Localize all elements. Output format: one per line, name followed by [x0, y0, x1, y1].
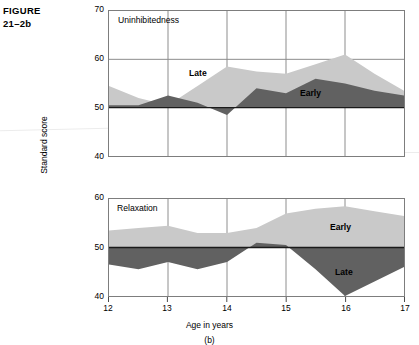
scan-artifact: [0, 128, 108, 131]
x-tick-15: 15: [275, 303, 297, 313]
y-tick-upper-40: 40: [82, 151, 104, 161]
figure-caption-line1: FIGURE: [3, 5, 67, 18]
x-tick-17: 17: [394, 303, 416, 313]
series-label-late-lower: Late: [335, 267, 353, 277]
figure-caption: FIGURE 21–2b: [3, 5, 67, 30]
series-label-early-upper: Early: [300, 88, 321, 98]
y-tick-upper-60: 60: [82, 53, 104, 63]
y-axis-title: Standard score: [39, 55, 49, 235]
y-tick-upper-70: 70: [82, 4, 104, 14]
series-label-early-lower: Early: [330, 222, 351, 232]
series-area-late: [109, 243, 404, 296]
chart-panel-uninhibitedness: [108, 10, 405, 157]
y-tick-lower-50: 50: [82, 242, 104, 252]
series-label-late-upper: Late: [189, 68, 207, 78]
y-tick-lower-60: 60: [82, 192, 104, 202]
panel-title-relaxation: Relaxation: [117, 203, 158, 213]
uninhibitedness-plot: [109, 11, 404, 156]
x-tick-14: 14: [216, 303, 238, 313]
x-tick-13: 13: [156, 303, 178, 313]
x-axis-title: Age in years: [0, 320, 419, 330]
relaxation-plot: [109, 199, 404, 296]
panel-title-uninhibitedness: Uninhibitedness: [118, 15, 179, 25]
y-tick-upper-50: 50: [82, 102, 104, 112]
figure-container: FIGURE 21–2b Standard score Uninhibitedn…: [0, 0, 419, 345]
figure-caption-line2: 21–2b: [3, 18, 67, 31]
y-tick-lower-40: 40: [82, 291, 104, 301]
x-axis-ticks: [108, 297, 405, 303]
scan-artifact: [405, 152, 419, 153]
x-tick-12: 12: [97, 303, 119, 313]
subfigure-label: (b): [0, 335, 419, 345]
x-tick-16: 16: [335, 303, 357, 313]
